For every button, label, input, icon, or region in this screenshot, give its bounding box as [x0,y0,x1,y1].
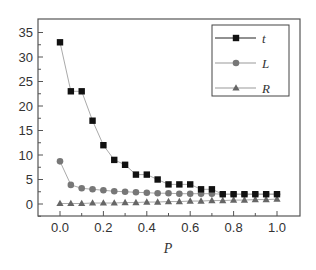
data-point [111,188,118,195]
x-axis: 0.00.20.40.60.81.0 [51,211,286,235]
line-chart: 05101520253035 0.00.20.40.60.81.0 P tLR [0,0,316,270]
y-tick-label: 20 [19,99,33,114]
data-point [176,190,183,197]
y-tick-label: 15 [19,123,33,138]
legend-box [212,25,289,96]
y-axis: 05101520253035 [19,25,43,216]
data-point [208,197,215,203]
y-tick-label: 30 [19,50,33,65]
legend-marker-icon [233,60,240,67]
legend-label: t [262,31,266,46]
data-point [165,181,171,187]
data-point [56,200,63,206]
data-point [79,88,85,94]
data-point [89,199,96,205]
data-point [187,190,194,197]
x-tick-label: 0.6 [181,220,199,235]
legend-marker-icon [233,35,239,41]
y-tick-label: 35 [19,25,33,40]
data-point [198,186,204,192]
data-point [154,190,161,197]
x-tick-label: 0.4 [138,220,156,235]
legend-label: R [261,81,270,96]
data-point [241,191,247,197]
data-point [154,176,160,182]
x-axis-title: P [163,241,173,256]
data-point [187,197,194,203]
data-point [57,39,63,45]
data-point [187,181,193,187]
data-point [165,190,172,197]
data-point [143,198,150,204]
data-point [144,189,151,196]
data-point [57,158,64,165]
data-point [220,191,226,197]
y-tick-label: 0 [26,197,33,212]
data-point [274,191,280,197]
y-tick-label: 10 [19,148,33,163]
data-point [176,181,182,187]
x-tick-label: 0.2 [94,220,112,235]
data-point [68,182,75,189]
data-point [67,200,74,206]
legend: tLR [212,25,289,96]
data-point [165,198,172,204]
data-point [122,162,128,168]
data-point [111,157,117,163]
data-point [122,188,129,195]
data-point [89,186,96,193]
data-point [100,199,107,205]
data-point [89,118,95,124]
y-tick-label: 5 [26,172,33,187]
data-point [100,142,106,148]
x-tick-label: 0.8 [225,220,243,235]
y-tick-label: 25 [19,74,33,89]
data-point [133,171,139,177]
data-point [100,187,107,194]
data-point [78,185,85,192]
x-tick-label: 0.0 [51,220,69,235]
x-tick-label: 1.0 [268,220,286,235]
data-point [209,186,215,192]
data-point [252,191,258,197]
data-point [122,199,129,205]
data-point [68,88,74,94]
data-point [263,191,269,197]
data-point [230,191,236,197]
data-point [133,189,140,196]
legend-label: L [261,56,269,71]
data-point [144,171,150,177]
